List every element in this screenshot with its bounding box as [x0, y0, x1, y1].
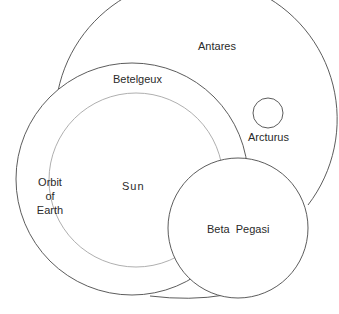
label-orbit-line2: of [34, 189, 66, 203]
label-orbit-line1: Orbit [34, 175, 66, 189]
label-beta-pegasi: Beta Pegasi [207, 222, 269, 236]
star-size-diagram: Antares Betelgeux Arcturus Orbit of Eart… [0, 0, 339, 314]
antares-circle-bottom [150, 295, 225, 298]
label-antares: Antares [198, 39, 236, 53]
circles-graphic [0, 0, 339, 314]
label-betelgeux: Betelgeux [113, 72, 162, 86]
label-arcturus: Arcturus [248, 130, 289, 144]
arcturus-circle [253, 98, 283, 128]
label-orbit-of-earth: Orbit of Earth [34, 175, 66, 217]
label-orbit-line3: Earth [34, 203, 66, 217]
label-sun: Sun [122, 179, 145, 193]
